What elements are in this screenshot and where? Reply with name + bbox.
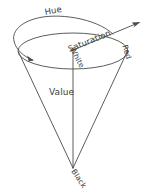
cone-left-slant-line (19, 52, 74, 168)
label-value: Value (49, 88, 74, 97)
cone-drawing-canvas (0, 0, 146, 196)
hsv-color-cone-diagram: Hue Saturation White Red Value Black (0, 0, 146, 196)
hue-arrow-head-icon (26, 56, 33, 62)
